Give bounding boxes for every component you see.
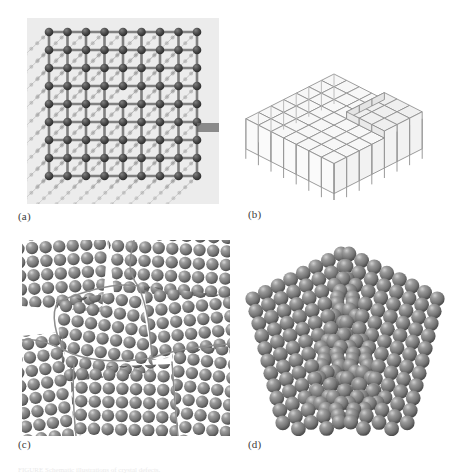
panel-b-graphic [236, 40, 432, 200]
figure-root: (a) (b) (c) [0, 0, 453, 474]
panel-c-graphic [22, 240, 230, 436]
panel-d-graphic [245, 242, 445, 436]
panel-b-lattice-step [236, 40, 432, 200]
panel-a-dislocation [27, 18, 219, 204]
panel-d-twin-boundary [245, 242, 445, 436]
panel-c-label: (c) [18, 438, 31, 450]
figure-caption: FIGURE Schematic illustrations of crysta… [18, 466, 438, 474]
panel-a-graphic [27, 18, 219, 204]
panel-d-label: (d) [248, 438, 261, 450]
panel-b-label: (b) [248, 208, 261, 220]
panel-a-label: (a) [18, 210, 31, 222]
panel-c-grain-boundaries [22, 240, 230, 436]
